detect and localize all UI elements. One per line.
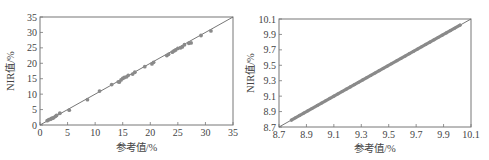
y-tick-label: 8.7 (264, 122, 277, 133)
data-point (86, 98, 90, 102)
y-tick-label: 0 (32, 120, 37, 131)
x-tick-label: 20 (145, 127, 155, 138)
data-point (189, 41, 193, 45)
x-tick-label: 9.5 (382, 129, 395, 140)
charts-canvas: 0510152025303505101520253035参考值/%NIR值/% … (0, 0, 489, 160)
data-point (458, 24, 461, 27)
data-point (373, 71, 376, 74)
left-scatter-chart: 0510152025303505101520253035参考值/%NIR值/% (4, 12, 238, 154)
y-tick-label: 10.1 (259, 14, 277, 25)
data-point (340, 90, 343, 93)
data-point (378, 69, 381, 72)
data-point (416, 47, 419, 50)
data-point (424, 43, 427, 46)
data-point (306, 109, 309, 112)
y-axis-label: NIR值/% (4, 51, 16, 91)
data-point (290, 118, 293, 121)
x-tick-label: 10 (90, 127, 100, 138)
data-point (412, 50, 415, 53)
y-tick-label: 30 (27, 27, 37, 38)
y-tick-label: 25 (27, 42, 37, 53)
data-point (361, 78, 364, 81)
right-scatter-chart: 8.78.99.19.39.59.79.910.18.78.99.19.39.5… (244, 14, 480, 155)
data-point (126, 73, 130, 77)
data-point (436, 36, 439, 39)
data-point (357, 81, 360, 84)
data-point (441, 34, 444, 37)
data-point (408, 52, 411, 55)
y-axis-label: NIR值/% (244, 53, 256, 93)
data-point (345, 88, 348, 91)
data-point (428, 41, 431, 44)
data-point (324, 99, 327, 102)
data-point (353, 83, 356, 86)
y-tick-label: 9.5 (264, 60, 277, 71)
data-point (420, 45, 423, 48)
data-point (298, 114, 301, 117)
data-point (328, 97, 331, 100)
x-tick-label: 9.3 (355, 129, 368, 140)
data-point (404, 54, 407, 57)
y-tick-label: 20 (27, 58, 37, 69)
data-point (143, 65, 147, 69)
data-point (98, 89, 102, 93)
y-tick-label: 15 (27, 73, 37, 84)
data-point (390, 62, 393, 65)
data-point (386, 64, 389, 67)
data-point (349, 85, 352, 88)
x-tick-label: 35 (228, 127, 238, 138)
data-point (58, 111, 62, 115)
data-point (67, 108, 71, 112)
y-tick-label: 9.3 (264, 75, 277, 86)
x-tick-label: 30 (200, 127, 210, 138)
data-point (55, 114, 59, 118)
data-point (167, 52, 171, 56)
y-tick-label: 9.9 (264, 29, 277, 40)
x-tick-label: 25 (173, 127, 183, 138)
data-point (399, 57, 402, 60)
data-point (445, 31, 448, 34)
data-point (302, 112, 305, 115)
data-point (332, 95, 335, 98)
x-axis-label: 参考值/% (116, 141, 158, 153)
data-point (382, 67, 385, 70)
x-tick-label: 15 (118, 127, 128, 138)
data-point (183, 43, 187, 47)
x-tick-label: 9.7 (410, 129, 423, 140)
data-point (336, 92, 339, 95)
data-point (110, 83, 114, 87)
x-axis-label: 参考值/% (354, 142, 396, 154)
data-point (449, 29, 452, 32)
data-point (320, 101, 323, 104)
y-tick-label: 8.9 (264, 106, 277, 117)
data-point (365, 76, 368, 79)
data-point (395, 59, 398, 62)
data-point (432, 38, 435, 41)
y-tick-label: 9.1 (264, 91, 277, 102)
x-tick-label: 9.9 (437, 129, 450, 140)
x-tick-label: 5 (65, 127, 70, 138)
x-tick-label: 10.1 (462, 129, 480, 140)
data-point (133, 70, 137, 74)
x-tick-label: 8.9 (300, 129, 313, 140)
y-tick-label: 10 (27, 89, 37, 100)
y-tick-label: 5 (32, 104, 37, 115)
y-tick-label: 9.7 (264, 44, 277, 55)
data-point (209, 29, 213, 33)
y-tick-label: 35 (27, 12, 37, 23)
x-tick-label: 9.1 (328, 129, 341, 140)
data-point (152, 60, 156, 64)
data-point (453, 27, 456, 30)
data-point (199, 34, 203, 38)
data-point (294, 116, 297, 119)
data-point (369, 74, 372, 77)
data-point (316, 104, 319, 107)
x-tick-label: 0 (38, 127, 43, 138)
data-point (310, 107, 313, 110)
